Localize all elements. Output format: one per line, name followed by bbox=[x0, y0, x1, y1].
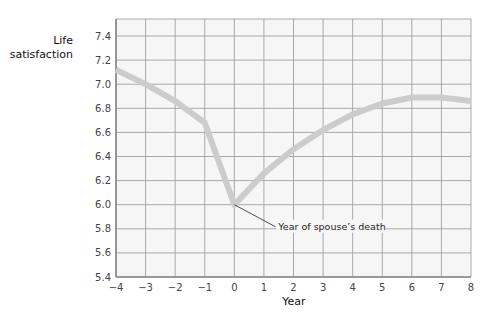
y-axis-label-line1: Life bbox=[53, 34, 73, 47]
y-tick-label: 7.2 bbox=[95, 55, 111, 66]
y-tick-label: 6.0 bbox=[95, 199, 111, 210]
x-tick-label: 7 bbox=[438, 282, 444, 293]
y-tick-label: 5.4 bbox=[95, 272, 111, 283]
x-tick-label: 2 bbox=[290, 282, 296, 293]
line-chart: Year of spouse’s death −4−3−2−1012345678… bbox=[0, 0, 499, 324]
x-tick-label: 4 bbox=[349, 282, 355, 293]
x-tick-label: −1 bbox=[197, 282, 212, 293]
y-tick-label: 6.2 bbox=[95, 175, 111, 186]
y-tick-label: 6.4 bbox=[95, 151, 111, 162]
y-tick-label: 7.0 bbox=[95, 79, 111, 90]
y-tick-label: 6.6 bbox=[95, 127, 111, 138]
x-tick-label: −3 bbox=[138, 282, 153, 293]
x-tick-label: 3 bbox=[320, 282, 326, 293]
x-tick-label: 0 bbox=[231, 282, 237, 293]
x-tick-labels: −4−3−2−1012345678 bbox=[109, 282, 475, 293]
y-tick-label: 7.4 bbox=[95, 31, 111, 42]
x-tick-label: 6 bbox=[409, 282, 415, 293]
y-tick-labels: 5.45.65.86.06.26.46.66.87.07.27.4 bbox=[95, 31, 111, 283]
x-tick-label: 5 bbox=[379, 282, 385, 293]
y-tick-label: 6.8 bbox=[95, 103, 111, 114]
y-tick-label: 5.6 bbox=[95, 247, 111, 258]
x-tick-label: 8 bbox=[468, 282, 474, 293]
x-tick-label: 1 bbox=[261, 282, 267, 293]
annotation-label: Year of spouse’s death bbox=[277, 221, 385, 232]
y-tick-label: 5.8 bbox=[95, 223, 111, 234]
x-axis-label: Year bbox=[281, 295, 306, 308]
x-tick-label: −2 bbox=[168, 282, 183, 293]
x-tick-label: −4 bbox=[109, 282, 124, 293]
y-axis-label-line2: satisfaction bbox=[10, 48, 73, 61]
